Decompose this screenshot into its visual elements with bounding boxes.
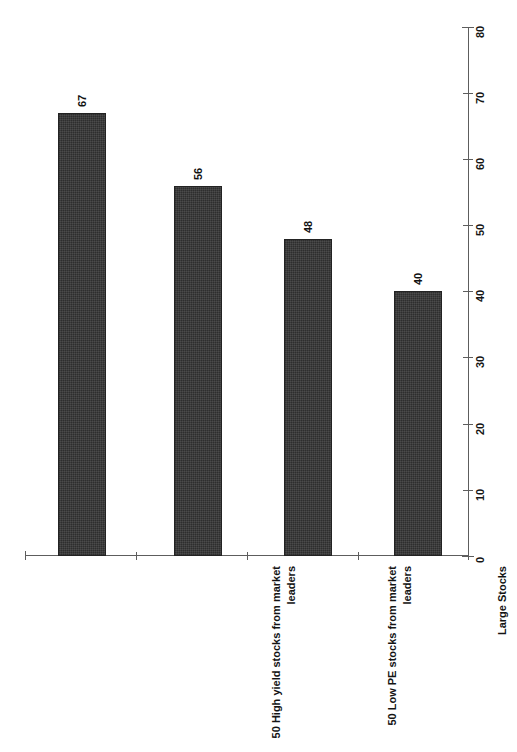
value-axis-tick-20 (463, 424, 473, 425)
plot-area: 80 70 60 50 40 30 20 10 0 67 56 48 40 50… (0, 0, 517, 752)
bar-value-label-4: 40 (412, 273, 424, 285)
category-label-50-low-pe-stocks: 50 Low PE stocks from market leaders (385, 566, 415, 746)
value-axis-label-40: 40 (474, 262, 486, 302)
bar-value-label-2: 56 (192, 168, 204, 180)
category-label-large-stocks: Large Stocks (495, 566, 510, 746)
bar-50-low-pe-stocks (174, 186, 222, 556)
category-tick (358, 552, 359, 560)
value-axis-tick-10 (463, 490, 473, 491)
category-label-50-high-yield-stocks: 50 High yield stocks from market leaders (269, 566, 299, 746)
value-axis-tick-0 (462, 556, 474, 557)
value-axis-label-10: 10 (474, 461, 486, 501)
value-axis-label-60: 60 (474, 130, 486, 170)
category-axis-start-tick (25, 551, 26, 560)
bar-value-label-1: 67 (76, 95, 88, 107)
value-axis-tick-80 (462, 27, 474, 28)
value-axis-label-80: 80 (474, 0, 486, 38)
value-axis-tick-40 (463, 291, 473, 292)
value-axis-label-30: 30 (474, 328, 486, 368)
value-axis-label-70: 70 (474, 64, 486, 104)
value-axis-label-0: 0 (474, 523, 486, 563)
value-axis-label-50: 50 (474, 196, 486, 236)
value-axis-tick-70 (463, 93, 473, 94)
value-axis-tick-60 (463, 159, 473, 160)
category-tick (247, 552, 248, 560)
bar-50-high-pe-stocks (394, 291, 442, 556)
bar-50-high-yield-stocks (58, 113, 106, 556)
value-axis-tick-50 (463, 225, 473, 226)
bar-large-stocks (284, 239, 332, 556)
value-axis-tick-30 (463, 357, 473, 358)
value-axis-label-20: 20 (474, 395, 486, 435)
bar-chart-figure: 80 70 60 50 40 30 20 10 0 67 56 48 40 50… (0, 0, 517, 752)
category-tick (136, 552, 137, 560)
bar-value-label-3: 48 (302, 221, 314, 233)
